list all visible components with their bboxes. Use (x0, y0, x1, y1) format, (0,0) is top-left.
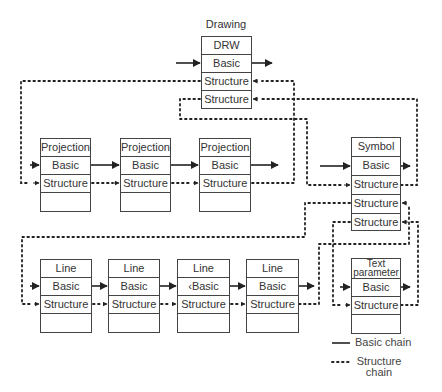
cell-structure: Structure (109, 296, 159, 314)
projection-box-1[interactable]: Projection Basic Structure (40, 138, 91, 212)
cell-basic: Basic (202, 55, 251, 73)
cell-structure: Structure (121, 175, 170, 193)
cell-drw: DRW (202, 37, 251, 55)
cell-structure: Structure (41, 175, 90, 193)
projection-box-3[interactable]: Projection Basic Structure (199, 138, 251, 212)
drawing-title: Drawing (196, 18, 256, 30)
cell-structure: Structure (200, 175, 250, 193)
cell-basic: ‹Basic (178, 278, 229, 296)
cell-basic: Basic (109, 278, 159, 296)
cell-empty (41, 314, 91, 332)
cell-basic: Basic (121, 157, 170, 175)
cell-projection: Projection (41, 139, 90, 157)
line-box-4[interactable]: Line Basic Structure (246, 259, 299, 333)
line-box-2[interactable]: Line Basic Structure (108, 259, 160, 333)
cell-projection: Projection (121, 139, 170, 157)
cell-symbol: Symbol (352, 138, 400, 157)
cell-empty (109, 314, 159, 332)
cell-basic: Basic (200, 157, 250, 175)
cell-basic: Basic (352, 157, 400, 176)
line-box-1[interactable]: Line Basic Structure (40, 259, 92, 333)
projection-box-2[interactable]: Projection Basic Structure (120, 138, 171, 212)
cell-empty (121, 193, 170, 211)
cell-structure: Structure (352, 297, 400, 315)
legend-structure-label-2: chain (355, 367, 403, 378)
cell-structure: Structure (202, 91, 251, 109)
cell-structure: Structure (352, 195, 400, 214)
cell-empty (200, 193, 250, 211)
cell-structure: Structure (178, 296, 229, 314)
cell-basic: Basic (247, 278, 298, 296)
cell-empty (352, 315, 400, 333)
cell-empty (247, 314, 298, 332)
cell-empty (41, 193, 90, 211)
cell-basic: Basic (41, 278, 91, 296)
text-parameter-box[interactable]: Text parameter Basic Structure (351, 258, 401, 334)
drawing-box[interactable]: DRW Basic Structure Structure (201, 36, 252, 109)
symbol-box[interactable]: Symbol Basic Structure Structure Structu… (351, 137, 401, 231)
cell-basic: Basic (41, 157, 90, 175)
line-box-3[interactable]: Line ‹Basic Structure (177, 259, 230, 333)
cell-structure: Structure (41, 296, 91, 314)
cell-structure: Structure (352, 214, 400, 232)
cell-line: Line (41, 260, 91, 278)
cell-projection: Projection (200, 139, 250, 157)
cell-basic: Basic (352, 279, 400, 297)
cell-structure: Structure (202, 73, 251, 91)
cell-empty (178, 314, 229, 332)
cell-text-parameter: Text parameter (352, 259, 400, 279)
cell-line: Line (178, 260, 229, 278)
cell-structure: Structure (352, 176, 400, 195)
cell-structure: Structure (247, 296, 298, 314)
cell-line: Line (109, 260, 159, 278)
legend-basic-chain: Basic chain (355, 337, 411, 348)
cell-line: Line (247, 260, 298, 278)
